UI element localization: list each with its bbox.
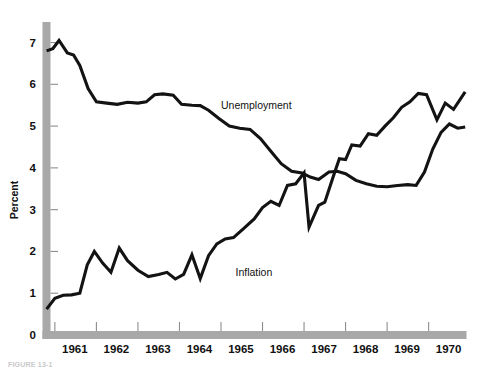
y-axis-tick-label: 7 [30, 37, 36, 49]
x-axis-tick-label: 1966 [270, 343, 296, 355]
y-axis-tick-label: 0 [30, 329, 36, 341]
y-axis-tick-label: 5 [30, 120, 37, 132]
y-axis-tick-label: 2 [30, 245, 36, 257]
phillips-curve-time-series-chart: 01234567 1961196219631964196519661967196… [0, 0, 494, 369]
series-label-inflation: Inflation [236, 266, 273, 278]
y-axis-tick-label: 1 [30, 287, 37, 299]
x-axis-tick-label: 1963 [145, 343, 171, 355]
x-axis-tick-label: 1969 [394, 343, 420, 355]
x-axis-tick-label: 1962 [104, 343, 130, 355]
figure-caption: FIGURE 13-1 [8, 361, 494, 369]
x-axis-bar [43, 331, 467, 339]
x-axis-tick-label: 1967 [311, 343, 337, 355]
x-axis-tick-label: 1964 [187, 343, 213, 355]
y-axis-tick-label: 3 [30, 204, 36, 216]
y-axis-tick-label: 4 [30, 162, 37, 174]
x-axis-tick-label: 1961 [62, 343, 88, 355]
x-axis-tick-label: 1968 [353, 343, 379, 355]
y-axis-bar [43, 22, 51, 339]
y-axis-tick-label: 6 [30, 78, 36, 90]
x-axis-tick-label: 1970 [436, 343, 462, 355]
x-axis-tick-label: 1965 [228, 343, 254, 355]
y-axis-title: Percent [8, 180, 20, 219]
series-label-unemployment: Unemployment [221, 99, 292, 111]
figure-container: 01234567 1961196219631964196519661967196… [0, 0, 494, 369]
